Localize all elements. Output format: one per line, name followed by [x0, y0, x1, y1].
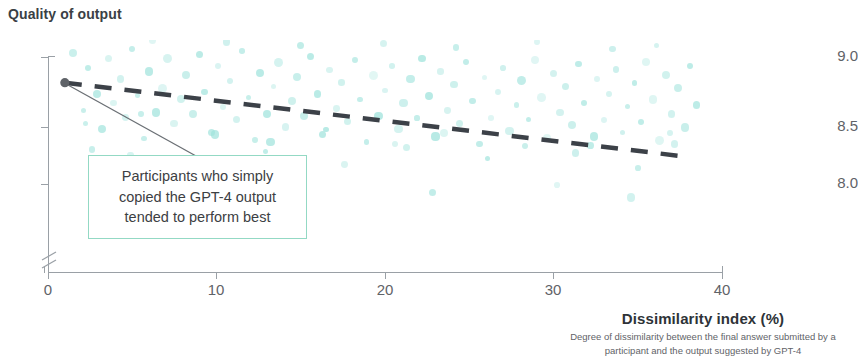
annotation-callout-text: Participants who simply copied the GPT-4…	[109, 166, 286, 228]
x-axis-title: Dissimilarity index (%)	[548, 310, 858, 327]
x-axis-subtitle-line-2: participant and the output suggested by …	[605, 345, 801, 356]
x-axis-subtitle-line-1: Degree of dissimilarity between the fina…	[570, 331, 836, 342]
x-axis-title-block: Dissimilarity index (%) Degree of dissim…	[548, 310, 858, 358]
highlighted-data-point	[60, 78, 69, 87]
chart-container: Quality of output 9.0 8.5 8.0 0 10 20 30…	[0, 0, 858, 362]
annotation-line-2: copied the GPT-4 output	[119, 189, 276, 205]
annotation-leader-line	[68, 85, 196, 156]
trend-line	[65, 83, 688, 157]
annotation-callout: Participants who simply copied the GPT-4…	[88, 155, 307, 239]
annotation-line-3: tended to perform best	[125, 209, 271, 225]
annotation-line-1: Participants who simply	[122, 168, 274, 184]
x-axis-subtitle: Degree of dissimilarity between the fina…	[548, 330, 858, 358]
